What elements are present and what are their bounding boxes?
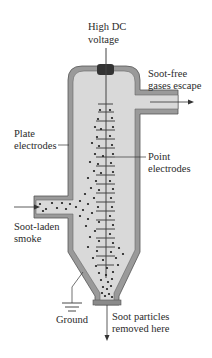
vessel-interior bbox=[36, 71, 178, 301]
label-ground: Ground bbox=[56, 314, 89, 325]
label-voltage-2: voltage bbox=[88, 34, 119, 45]
label-plate-1: Plate bbox=[14, 128, 35, 139]
label-outlet-2: gases escape bbox=[148, 80, 202, 91]
label-outlet-1: Soot-free bbox=[148, 68, 187, 79]
label-point-2: electrodes bbox=[148, 163, 191, 174]
label-inlet-2: smoke bbox=[14, 233, 42, 244]
label-removal-2: removed here bbox=[112, 323, 170, 334]
label-voltage-1: High DC bbox=[88, 21, 126, 32]
ground-icon bbox=[62, 303, 82, 311]
label-removal-1: Soot particles bbox=[112, 311, 169, 322]
removal-arrowhead bbox=[105, 335, 110, 341]
outlet-arrowhead bbox=[188, 100, 194, 105]
ground-wire bbox=[72, 272, 83, 303]
precipitator-diagram: High DC voltage Soot-free gases escape P… bbox=[0, 0, 212, 358]
bottom-cap bbox=[93, 300, 121, 305]
label-point-1: Point bbox=[148, 151, 170, 162]
label-plate-2: electrodes bbox=[14, 140, 57, 151]
label-inlet-1: Soot-laden bbox=[14, 221, 60, 232]
